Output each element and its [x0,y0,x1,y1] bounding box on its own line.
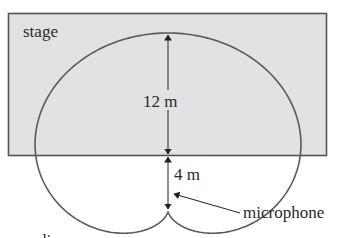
microphone-label: microphone [243,203,324,222]
microphone-pointer [174,194,240,213]
lower-distance-label: 4 m [174,165,200,184]
audience-label: audience [22,231,82,238]
cardioid-diagram: stage 12 m 4 m microphone audience [0,0,346,238]
stage-label: stage [23,22,58,41]
upper-distance-label: 12 m [143,92,177,111]
